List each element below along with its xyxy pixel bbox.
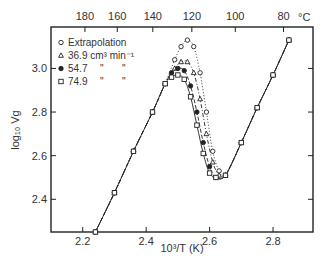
open-square-marker — [150, 110, 154, 114]
y-tick-label: 2.4 — [32, 193, 47, 205]
x-tick-label: 2.2 — [75, 235, 90, 247]
ditto-mark: " — [100, 63, 104, 74]
x-tick-label: 2.8 — [265, 235, 280, 247]
open-circle-marker — [185, 38, 189, 42]
legend-item: 54.7"" — [59, 63, 126, 74]
x-tick-label: 2.4 — [139, 235, 154, 247]
open-square-marker — [163, 82, 167, 86]
open-square-marker — [59, 79, 63, 83]
x-axis-title: 10³/T (K) — [160, 242, 203, 254]
open-square-marker — [176, 73, 180, 77]
open-circle-marker — [204, 110, 208, 114]
filled-circle-marker — [59, 66, 63, 70]
open-square-marker — [223, 173, 227, 177]
open-circle-marker — [59, 40, 63, 44]
filled-circle-marker — [195, 110, 199, 114]
top-tick-label: 120 — [183, 10, 201, 22]
chart: 2.22.42.62.8 2.42.62.83.0 18016014012010… — [0, 0, 325, 270]
open-triangle-marker — [210, 160, 215, 164]
top-tick-label: 180 — [76, 10, 94, 22]
open-square-marker — [271, 73, 275, 77]
legend-item: 36.9 cm³ min⁻¹ — [59, 50, 135, 61]
filled-circle-marker — [207, 164, 211, 168]
open-circle-marker — [179, 44, 183, 48]
open-square-marker — [93, 230, 97, 234]
open-square-marker — [255, 105, 259, 109]
y-axis-title: log₁₀ Vg — [9, 110, 21, 149]
open-circle-marker — [198, 71, 202, 75]
legend-label: 74.9 — [68, 76, 88, 87]
x-tick-label: 2.6 — [202, 235, 217, 247]
legend: Extrapolation36.9 cm³ min⁻¹54.7""74.9"" — [59, 37, 135, 87]
top-tick-label: 140 — [144, 10, 162, 22]
open-triangle-marker — [185, 59, 190, 63]
open-square-marker — [131, 149, 135, 153]
open-square-marker — [195, 123, 199, 127]
legend-label: 36.9 cm³ min⁻¹ — [68, 50, 135, 61]
top-tick-label: 160 — [108, 10, 126, 22]
filled-circle-marker — [182, 68, 186, 72]
ditto-mark: " — [100, 76, 104, 87]
top-temperature-axis: 18016014012010080 — [76, 10, 290, 32]
filled-circle-marker — [176, 66, 180, 70]
open-square-marker — [188, 95, 192, 99]
top-tick-label: 100 — [226, 10, 244, 22]
legend-item: 74.9"" — [59, 76, 126, 87]
open-circle-marker — [173, 58, 177, 62]
legend-label: Extrapolation — [68, 37, 126, 48]
ditto-mark: " — [122, 63, 126, 74]
y-tick-label: 2.6 — [32, 150, 47, 162]
legend-label: 54.7 — [68, 63, 88, 74]
ditto-mark: " — [122, 76, 126, 87]
open-square-marker — [287, 38, 291, 42]
top-tick-label: 80 — [277, 10, 289, 22]
legend-item: Extrapolation — [59, 37, 127, 48]
open-triangle-marker — [191, 70, 196, 74]
open-triangle-marker — [59, 53, 64, 57]
open-square-marker — [112, 191, 116, 195]
filled-circle-marker — [169, 71, 173, 75]
open-square-marker — [207, 171, 211, 175]
filled-circle-marker — [201, 140, 205, 144]
open-square-marker — [201, 151, 205, 155]
open-square-marker — [239, 140, 243, 144]
filled-circle-marker — [188, 84, 192, 88]
y-tick-label: 3.0 — [32, 62, 47, 74]
open-square-marker — [182, 77, 186, 81]
y-tick-label: 2.8 — [32, 106, 47, 118]
top-axis-unit: °C — [298, 11, 310, 23]
open-triangle-marker — [198, 96, 203, 100]
open-triangle-marker — [179, 59, 184, 63]
open-square-marker — [169, 75, 173, 79]
open-triangle-marker — [204, 131, 209, 135]
open-square-marker — [214, 175, 218, 179]
open-circle-marker — [192, 44, 196, 48]
open-circle-marker — [211, 149, 215, 153]
